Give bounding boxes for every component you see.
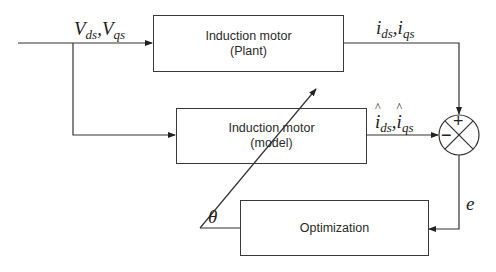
optimization-block-label: Optimization bbox=[300, 221, 369, 236]
model-block: Induction motor (model) bbox=[176, 108, 367, 164]
plant-block: Induction motor (Plant) bbox=[153, 15, 344, 72]
block-diagram: Induction motor (Plant) Induction motor … bbox=[0, 0, 496, 272]
input-signal-label: Vds,Vqs bbox=[74, 18, 125, 43]
optimization-block: Optimization bbox=[240, 200, 429, 256]
plus-sign: + bbox=[453, 111, 464, 132]
plant-block-subtitle: (Plant) bbox=[230, 44, 267, 59]
parameter-theta-label: θ bbox=[208, 206, 217, 228]
error-signal-label: e bbox=[466, 193, 474, 215]
plant-output-label: ids,iqs bbox=[376, 17, 414, 42]
error-to-optimization-wire bbox=[429, 155, 459, 229]
plant-block-title: Induction motor bbox=[205, 29, 291, 44]
model-block-title: Induction motor bbox=[228, 121, 314, 136]
minus-sign: − bbox=[441, 125, 452, 146]
model-output-label: ids,iqs bbox=[375, 111, 413, 136]
model-block-subtitle: (model) bbox=[250, 136, 292, 151]
